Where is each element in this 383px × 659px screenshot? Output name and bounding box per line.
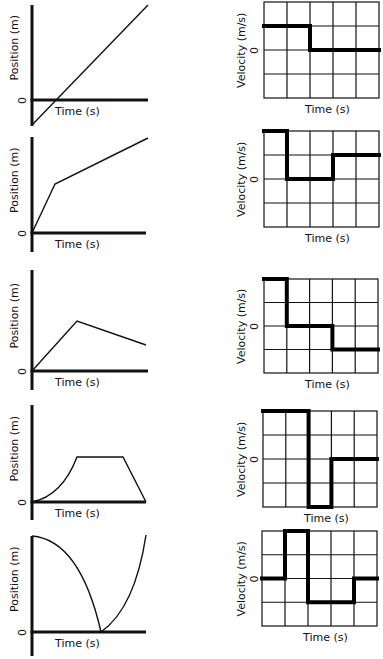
y-axis-label: Velocity (m/s) (235, 541, 248, 616)
zero-label: 0 (16, 629, 29, 636)
x-axis-label: Time (s) (54, 105, 100, 118)
x-axis-label: Time (s) (54, 637, 100, 650)
zero-label: 0 (248, 47, 261, 54)
velocity-graph-4: Velocity (m/s)0Time (s) (235, 411, 377, 525)
y-axis-label: Position (m) (8, 15, 21, 81)
zero-label: 0 (16, 97, 29, 104)
position-graph-4: Position (m)0Time (s) (8, 405, 146, 520)
x-axis-label: Time (s) (304, 103, 350, 116)
x-axis-label: Time (s) (302, 631, 348, 644)
y-axis-label: Position (m) (8, 147, 21, 213)
zero-label: 0 (16, 368, 29, 375)
zero-label: 0 (248, 323, 261, 330)
position-graph-5: Position (m)0Time (s) (8, 535, 146, 656)
position-curve (32, 138, 148, 233)
x-axis-label: Time (s) (54, 376, 100, 389)
x-axis-label: Time (s) (54, 507, 100, 520)
position-graph-3: Position (m)0Time (s) (8, 270, 148, 390)
zero-label: 0 (16, 230, 29, 237)
position-curve (32, 321, 146, 371)
zero-label: 0 (16, 499, 29, 506)
y-axis-label: Position (m) (8, 416, 21, 482)
velocity-graph-3: Velocity (m/s)0Time (s) (235, 279, 378, 391)
velocity-graph-2: Velocity (m/s)0Time (s) (235, 131, 379, 245)
x-axis-label: Time (s) (304, 378, 350, 391)
velocity-step-line (264, 279, 378, 350)
y-axis-label: Velocity (m/s) (235, 13, 248, 88)
position-graph-1: Position (m)0Time (s) (8, 5, 148, 126)
zero-label: 0 (248, 176, 261, 183)
velocity-time-graphs: Velocity (m/s)0Time (s)Velocity (m/s)0Ti… (235, 2, 379, 644)
x-axis-label: Time (s) (303, 512, 349, 525)
y-axis-label: Velocity (m/s) (235, 422, 248, 497)
velocity-graph-1: Velocity (m/s)0Time (s) (235, 2, 379, 116)
graph-worksheet: Position (m)0Time (s)Position (m)0Time (… (0, 0, 383, 659)
position-time-graphs: Position (m)0Time (s)Position (m)0Time (… (8, 5, 148, 656)
y-axis-label: Position (m) (8, 283, 21, 349)
zero-label: 0 (248, 456, 261, 463)
position-curve (32, 457, 146, 502)
x-axis-label: Time (s) (304, 232, 350, 245)
y-axis-label: Position (m) (8, 546, 21, 612)
position-graph-2: Position (m)0Time (s) (8, 137, 148, 252)
velocity-graph-5: Velocity (m/s)0Time (s) (235, 531, 377, 644)
velocity-step-line (264, 26, 379, 50)
position-curve (32, 535, 146, 632)
zero-label: 0 (248, 576, 261, 583)
x-axis-label: Time (s) (54, 238, 100, 251)
velocity-step-line (262, 531, 377, 602)
y-axis-label: Velocity (m/s) (235, 289, 248, 364)
y-axis-label: Velocity (m/s) (235, 142, 248, 217)
